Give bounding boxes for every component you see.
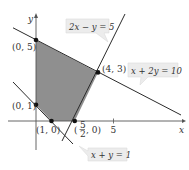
svg-text:x + y = 1: x + y = 1 [91,150,131,160]
feasible-region [36,40,98,121]
svg-text:2: 2 [80,129,86,139]
x-tick-label-5: 5 [111,125,117,135]
vertex-label-0-5: (0, 5) [12,42,36,52]
y-axis-arrow-icon [34,13,38,18]
svg-text:(: ( [74,125,78,135]
svg-text:, 0): , 0) [86,125,101,135]
vertex-label-5half-0: ( 5 2 , 0) [74,120,101,140]
svg-text:2x − y = 5: 2x − y = 5 [68,22,114,32]
vertex-label-1-0: (1, 0) [36,125,60,135]
vertex-label-0-1: (0, 1) [12,101,36,111]
vertex-1-0 [49,119,54,124]
callout-x-plus-y-eq-1: x + y = 1 [79,146,131,161]
vertex-label-4-3: (4, 3) [102,64,126,74]
callout-2x-minus-y-eq-5: 2x − y = 5 [66,19,114,42]
x-axis-arrow-icon [182,119,186,123]
feasible-region-diagram: y x 5 (0, 5) (4, 3) (1, 0) (0, 1) ( 5 2 … [0,0,189,170]
x-axis-label: x [179,125,184,135]
callout-x-plus-2y-eq-10: x + 2y = 10 [128,63,182,85]
vertex-4-3 [96,70,101,75]
y-axis-label: y [27,14,34,24]
vertex-5half-0 [72,119,77,124]
svg-text:x + 2y = 10: x + 2y = 10 [131,66,182,76]
